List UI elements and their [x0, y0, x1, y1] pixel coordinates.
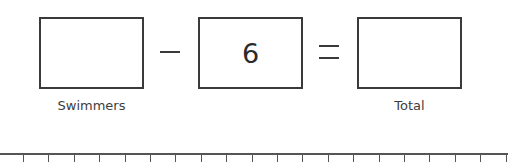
number-line-tick — [404, 154, 405, 162]
number-line-tick — [99, 154, 100, 162]
number-line-tick — [252, 154, 253, 162]
number-line-tick — [125, 154, 126, 162]
equals-sign-bottom-icon — [319, 57, 339, 59]
number-line-tick — [226, 154, 227, 162]
number-line-tick — [455, 154, 456, 162]
number-line-tick — [48, 154, 49, 162]
number-line-tick — [379, 154, 380, 162]
swimmers-label: Swimmers — [39, 98, 144, 113]
number-line-axis — [0, 153, 508, 155]
number-line-tick — [74, 154, 75, 162]
number-line-tick — [353, 154, 354, 162]
number-line-tick — [429, 154, 430, 162]
number-line-tick — [201, 154, 202, 162]
equals-sign-top-icon — [319, 45, 339, 47]
number-line-tick — [277, 154, 278, 162]
number-line-tick — [175, 154, 176, 162]
number-line-tick — [328, 154, 329, 162]
number-line-tick — [150, 154, 151, 162]
swimmers-input-box[interactable] — [39, 17, 144, 89]
number-line-tick — [480, 154, 481, 162]
number-line-tick — [302, 154, 303, 162]
number-line-tick — [506, 154, 507, 162]
minus-sign-icon — [160, 51, 180, 53]
subtrahend-box: 6 — [198, 17, 303, 89]
total-input-box[interactable] — [357, 17, 462, 89]
number-line-tick — [23, 154, 24, 162]
total-label: Total — [357, 98, 462, 113]
